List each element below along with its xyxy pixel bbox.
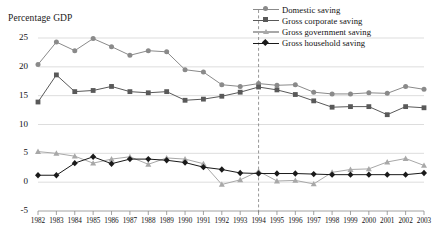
- x-axis-tick-label: 2003: [412, 217, 436, 225]
- series-gross-household-saving: [35, 154, 427, 179]
- square-marker-icon: [253, 15, 279, 26]
- legend-label: Gross government saving: [279, 27, 371, 37]
- y-axis-tick-label: 0: [6, 176, 28, 186]
- legend-label: Gross corporate saving: [279, 16, 362, 26]
- y-axis-tick-label: 20: [6, 61, 28, 71]
- y-axis-tick-label: 5: [6, 147, 28, 157]
- diamond-marker-icon: [253, 38, 279, 49]
- y-axis-tick-label: 10: [6, 119, 28, 129]
- chart-legend: Domestic savingGross corporate savingGro…: [253, 4, 428, 49]
- legend-item-gross-household-saving[interactable]: Gross household saving: [253, 38, 428, 49]
- circle-marker-icon: [253, 4, 279, 15]
- triangle-marker-icon: [253, 26, 279, 37]
- y-axis-tick-label: 15: [6, 90, 28, 100]
- y-axis-tick-label: -5: [6, 205, 28, 215]
- legend-item-gross-government-saving[interactable]: Gross government saving: [253, 26, 428, 37]
- legend-item-domestic-saving[interactable]: Domestic saving: [253, 4, 428, 15]
- legend-item-gross-corporate-saving[interactable]: Gross corporate saving: [253, 15, 428, 26]
- y-axis-tick-label: 25: [6, 32, 28, 42]
- legend-label: Gross household saving: [279, 38, 365, 48]
- legend-label: Domestic saving: [279, 5, 340, 15]
